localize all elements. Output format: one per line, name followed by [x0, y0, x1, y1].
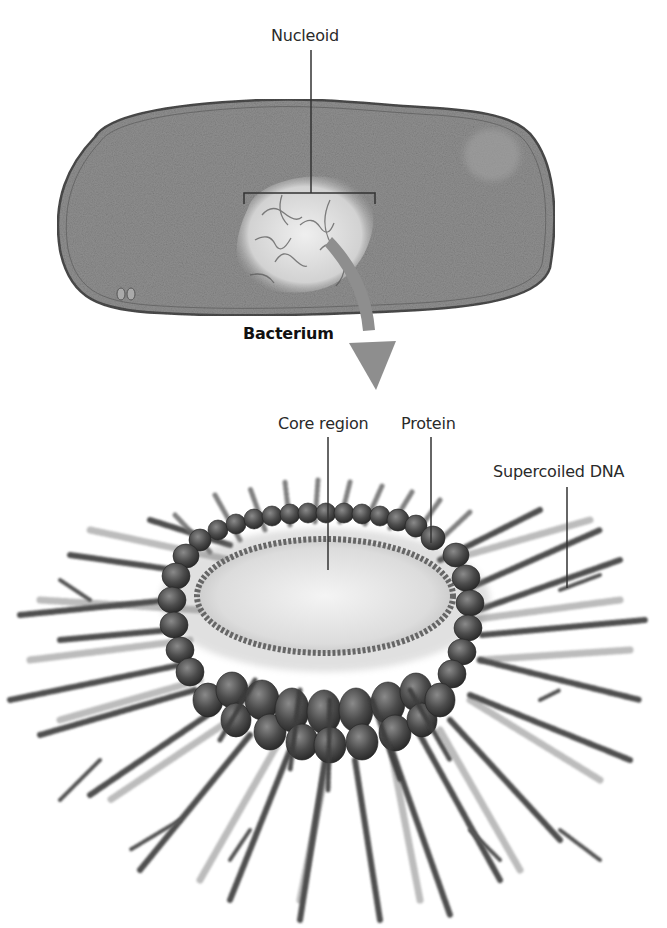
nucleoid-label: Nucleoid [271, 26, 339, 45]
protein-label: Protein [401, 414, 456, 433]
bacterium-caption: Bacterium [243, 324, 334, 343]
core-region [160, 528, 490, 672]
supercoiled-dna-label: Supercoiled DNA [493, 462, 624, 481]
core-region-label: Core region [278, 414, 369, 433]
